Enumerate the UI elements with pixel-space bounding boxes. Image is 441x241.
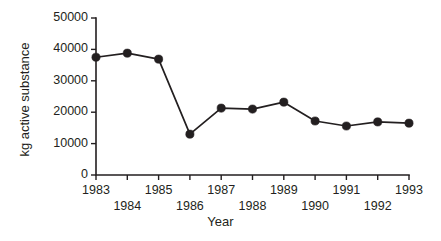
x-tick-label: 1985 xyxy=(137,184,181,197)
x-tick-label: 1986 xyxy=(168,200,212,213)
x-tick-label: 1989 xyxy=(262,184,306,197)
x-axis-title: Year xyxy=(0,214,441,229)
data-point xyxy=(405,119,413,127)
x-tick-label: 1990 xyxy=(293,200,337,213)
series-group xyxy=(92,49,413,138)
data-point xyxy=(92,53,100,61)
data-point xyxy=(123,49,131,57)
x-tick-label: 1988 xyxy=(231,200,275,213)
x-tick-label: 1992 xyxy=(356,200,400,213)
data-point xyxy=(374,118,382,126)
x-tick-label: 1991 xyxy=(324,184,368,197)
x-tick-label: 1984 xyxy=(105,200,149,213)
y-tick-label: 40000 xyxy=(38,42,88,55)
data-point xyxy=(280,98,288,106)
series-markers xyxy=(92,49,413,138)
data-point xyxy=(186,130,194,138)
chart-figure: 01000020000300004000050000 1983198419851… xyxy=(0,0,441,241)
data-point xyxy=(248,105,256,113)
x-tick-label: 1987 xyxy=(199,184,243,197)
y-tick-label: 10000 xyxy=(38,137,88,150)
x-tick-label: 1983 xyxy=(74,184,118,197)
data-point xyxy=(342,122,350,130)
y-tick-label: 30000 xyxy=(38,74,88,87)
y-tick-label: 20000 xyxy=(38,105,88,118)
data-point xyxy=(217,104,225,112)
x-tick-label: 1993 xyxy=(387,184,431,197)
y-tick-label: 50000 xyxy=(38,11,88,24)
axis-lines xyxy=(96,18,409,175)
data-point xyxy=(311,117,319,125)
series-line xyxy=(96,53,409,134)
y-tick-label: 0 xyxy=(38,168,88,181)
data-point xyxy=(155,55,163,63)
y-axis-title: kg active substance xyxy=(17,20,32,180)
axes-group xyxy=(91,18,409,180)
